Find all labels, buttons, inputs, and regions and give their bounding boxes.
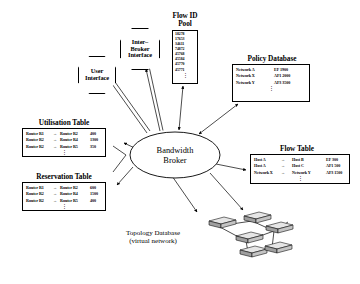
virtual-network-sketch xyxy=(218,214,288,252)
topology-database-caption: Topology Database (virtual network) xyxy=(100,230,206,246)
bandwidth-broker-label-line2: Broker xyxy=(125,156,225,166)
utilisation-table-title: Utilisation Table xyxy=(22,118,106,127)
bandwidth-broker-label: Bandwidth Broker xyxy=(125,146,225,166)
diagram-canvas: Bandwidth Broker User Interface Inter– B… xyxy=(0,0,360,284)
policy-service: AF3 3500 xyxy=(274,80,290,86)
router-icon-2 xyxy=(244,212,271,223)
policy-database-box[interactable]: Network A EF 1900 Network X AF1 2000 Net… xyxy=(232,64,310,102)
user-interface-label-line2: Interface xyxy=(85,75,109,82)
reservation-table-continuation: ⋮ xyxy=(26,204,102,210)
policy-database-title: Policy Database xyxy=(232,54,312,63)
resv-arrow: → xyxy=(53,198,60,204)
flow-id-pool-continuation: ⋮ xyxy=(175,73,195,79)
router-icon-5 xyxy=(240,246,267,257)
flow-table-continuation: ⋮ xyxy=(254,176,346,182)
inter-broker-interface-label-line3: Interface xyxy=(128,52,152,59)
resv-value: 400 xyxy=(90,198,96,204)
edge-inter-broker-interface xyxy=(146,69,163,132)
util-arrow: → xyxy=(53,144,60,150)
flow-arrow: → xyxy=(281,170,292,176)
edge-flow-id-pool xyxy=(179,86,183,130)
policy-database-continuation: ⋮ xyxy=(236,86,306,92)
util-src: Router R2 xyxy=(26,144,53,150)
router-icon-4 xyxy=(266,222,293,233)
user-interface-label: User Interface xyxy=(85,68,109,82)
util-value: 350 xyxy=(90,144,96,150)
inter-broker-interface-label: Inter– Broker Interface xyxy=(128,39,152,60)
flow-src: Network X xyxy=(254,170,281,176)
router-icon-1 xyxy=(209,217,236,228)
edge-topology-database xyxy=(172,173,243,212)
reservation-table-title: Reservation Table xyxy=(22,172,106,181)
bandwidth-broker-label-line1: Bandwidth xyxy=(125,146,225,156)
flow-id-pool-title-line2: Pool xyxy=(165,20,205,28)
resv-src: Router R2 xyxy=(26,198,53,204)
topology-database-subtitle: (virtual network) xyxy=(100,238,206,246)
reservation-table-box[interactable]: Router R1 → Router R2 600 Router R2 → Ro… xyxy=(22,182,106,211)
flow-table-box[interactable]: Host A → Host B EF 300 Host A → Host C A… xyxy=(250,154,350,184)
utilisation-table-continuation: ⋮ xyxy=(26,150,102,156)
node-user-interface[interactable]: User Interface xyxy=(78,56,116,94)
flow-id-pool-title: Flow ID Pool xyxy=(165,12,205,28)
utilisation-table-box[interactable]: Router R1 → Router R2 400 Router R2 → Ro… xyxy=(22,128,106,157)
edge-user-interface xyxy=(109,77,151,133)
edge-policy-database xyxy=(199,104,238,134)
flow-id-pool-box[interactable]: 18278 17653 34611 74872 45768 45584 4577… xyxy=(172,30,198,84)
edge-reservation-table xyxy=(117,167,133,185)
node-inter-broker-interface[interactable]: Inter– Broker Interface xyxy=(120,28,160,70)
flow-table-title: Flow Table xyxy=(262,144,332,153)
flow-value: AF3 1500 xyxy=(326,170,342,176)
router-icon-6 xyxy=(265,242,292,253)
router-icon-3 xyxy=(236,232,263,243)
